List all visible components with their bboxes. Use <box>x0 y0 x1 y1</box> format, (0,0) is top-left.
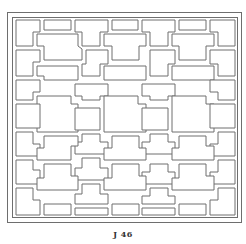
lattice-panel <box>16 50 40 76</box>
lattice-panel <box>75 158 108 180</box>
lattice-panel <box>16 104 40 128</box>
lattice-panel <box>210 80 235 100</box>
lattice-panel <box>104 66 146 80</box>
lattice-panel <box>112 204 139 215</box>
lattice-panel <box>16 20 40 46</box>
lattice-panel <box>16 188 40 215</box>
lattice-panel <box>112 20 138 30</box>
lattice-panel <box>37 164 78 190</box>
lattice-panel <box>16 160 40 184</box>
lattice-panel <box>142 108 168 130</box>
lattice-panel <box>179 204 206 215</box>
lattice-panel <box>142 208 175 215</box>
lattice-panel <box>210 104 235 128</box>
lattice-panel <box>16 132 40 156</box>
lattice-panel <box>172 136 214 160</box>
lattice-panel <box>75 20 108 46</box>
lattice-panel <box>75 134 108 154</box>
lattice-panel <box>142 84 175 100</box>
lattice-panel <box>75 84 108 100</box>
lattice-panel <box>75 108 100 130</box>
lattice-panel <box>172 66 214 80</box>
figure-caption: J 46 <box>0 229 246 239</box>
lattice-panel <box>142 20 175 46</box>
lattice-panel <box>75 184 108 204</box>
lattice-panel <box>104 136 146 160</box>
lattice-panel <box>37 66 78 80</box>
lattice-panel <box>142 164 175 184</box>
lattice-panel <box>37 34 82 60</box>
lattice-panel <box>172 34 214 60</box>
lattice-panel <box>75 208 108 215</box>
lattice-panel <box>104 96 146 132</box>
lattice-panel <box>142 134 175 154</box>
lattice-panel <box>104 34 146 60</box>
lattice-panel <box>150 50 175 76</box>
lattice-panel <box>172 96 214 132</box>
lattice-panel <box>210 188 235 215</box>
lattice-panel <box>44 20 71 30</box>
lattice-panel <box>104 164 146 190</box>
lattice-panel <box>172 164 214 190</box>
lattice-panel <box>44 204 71 215</box>
lattice-panel <box>142 188 175 204</box>
lattice-panel <box>37 96 78 132</box>
lattice-panel <box>37 136 78 160</box>
lattice-panel <box>179 20 206 30</box>
lattice-panels <box>16 20 235 215</box>
lattice-panel <box>16 80 40 100</box>
lattice-drawing <box>0 0 246 244</box>
